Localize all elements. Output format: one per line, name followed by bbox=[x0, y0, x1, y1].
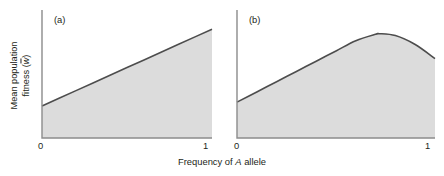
chart-a-area-fill bbox=[42, 29, 212, 138]
chart-b-area-fill bbox=[237, 33, 435, 138]
x-axis-label: Frequency of A allele bbox=[0, 156, 444, 167]
chart-b-svg bbox=[235, 10, 435, 142]
panel-label-b: (b) bbox=[249, 14, 260, 25]
panel-label-a: (a) bbox=[54, 14, 65, 25]
chart-panel-b bbox=[235, 10, 435, 142]
chart-a-svg bbox=[40, 10, 212, 142]
y-axis-label-line1: Mean population bbox=[10, 41, 22, 109]
x-tick-b-min: 0 bbox=[234, 140, 239, 151]
mean-fitness-symbol: w bbox=[21, 57, 33, 64]
chart-panel-a bbox=[40, 10, 212, 142]
x-tick-a-max: 1 bbox=[203, 140, 208, 151]
x-axis-label-prefix: Frequency of bbox=[178, 156, 235, 167]
y-axis-label-prefix: fitness ( bbox=[21, 64, 31, 96]
y-axis-label-line2: fitness (w) bbox=[21, 41, 33, 109]
x-tick-b-max: 1 bbox=[425, 140, 430, 151]
y-axis-label: Mean population fitness (w) bbox=[2, 12, 40, 138]
x-axis-label-suffix: allele bbox=[242, 156, 267, 167]
x-tick-a-min: 0 bbox=[38, 140, 43, 151]
figure: Mean population fitness (w) (a) (b) 0 1 … bbox=[0, 0, 444, 176]
